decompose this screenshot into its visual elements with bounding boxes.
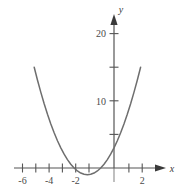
x-tick-label-neg2: -2 (72, 175, 80, 186)
y-tick-label-20: 20 (96, 28, 106, 39)
x-axis-arrowhead (155, 164, 166, 171)
x-axis-label: x (169, 163, 175, 174)
graph-figure: -6 -4 -2 2 10 20 y x (0, 0, 177, 190)
x-tick-label-neg4: -4 (45, 175, 53, 186)
x-tick-label-pos2: 2 (140, 175, 145, 186)
y-axis-label: y (118, 4, 124, 15)
parabola-curve (34, 67, 140, 175)
y-axis-arrowhead (110, 14, 117, 25)
y-tick-label-10: 10 (96, 96, 106, 107)
x-tick-label-neg6: -6 (18, 175, 26, 186)
parabola-plot: -6 -4 -2 2 10 20 y x (0, 0, 177, 190)
